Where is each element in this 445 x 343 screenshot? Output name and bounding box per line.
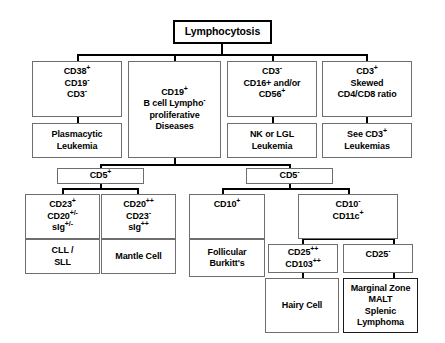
- node-cd10-negative-cd11c[interactable]: CD10- CD11c+: [298, 194, 398, 239]
- node-marginalzone-line3: Splenic: [346, 306, 415, 318]
- node-marginalzone-line4: Lymphoma: [346, 317, 415, 329]
- node-mantle-cell[interactable]: Mantle Cell: [101, 239, 176, 274]
- node-marginal-zone-malt[interactable]: Marginal Zone MALT Splenic Lymphoma: [343, 278, 418, 333]
- node-cd20pp-line1: CD20++: [104, 199, 173, 211]
- node-cd38-line2: CD19-: [35, 78, 119, 90]
- connector-level1-drop-2: [174, 54, 176, 61]
- node-cd3neg-line3: CD56+: [230, 89, 314, 101]
- node-cd3-positive-skewed[interactable]: CD3+ Skewed CD4/CD8 ratio: [322, 61, 412, 117]
- connector-level1-bus: [77, 54, 367, 56]
- node-cd38-positive[interactable]: CD38+ CD19- CD3-: [32, 61, 122, 117]
- node-cd25pp-line1: CD25++: [271, 247, 335, 259]
- node-cd38-line3: CD3-: [35, 89, 119, 101]
- node-cd23-line3: sIg+/-: [28, 222, 97, 234]
- node-cd19-line2: B cell Lympho-: [131, 98, 218, 110]
- connector-cd5pos-child-bus: [62, 188, 139, 190]
- node-cd19-line4: Diseases: [131, 121, 218, 133]
- node-cd38-line1: CD38+: [35, 66, 119, 78]
- node-cd10neg-line1: CD10-: [301, 199, 395, 211]
- node-nk-lgl-leukemia[interactable]: NK or LGL Leukemia: [227, 123, 317, 158]
- node-follicular-line2: Burkitt's: [192, 258, 262, 270]
- node-cd3pos-line2: Skewed: [325, 78, 409, 90]
- node-plasmacytic-leukemia[interactable]: Plasmacytic Leukemia: [32, 123, 122, 158]
- node-plasmacytic-line1: Plasmacytic: [35, 129, 119, 141]
- node-cd23-line2: CD20+/-: [28, 211, 97, 223]
- node-follicular-line1: Follicular: [192, 247, 262, 259]
- node-cd3neg-line1: CD3-: [230, 66, 314, 78]
- node-cllsll-line1: CLL /: [28, 245, 97, 257]
- node-cd3neg-line2: CD16+ and/or: [230, 78, 314, 90]
- node-cllsll-line2: SLL: [28, 257, 97, 269]
- node-mantle-line1: Mantle Cell: [104, 251, 173, 263]
- connector-cd5neg-child-bus: [222, 188, 350, 190]
- node-see-cd3-leukemias[interactable]: See CD3+ Leukemias: [322, 123, 412, 158]
- node-cd20pp-line2: CD23-: [104, 211, 173, 223]
- node-plasmacytic-line2: Leukemia: [35, 141, 119, 153]
- lymphocytosis-flowchart: Lymphocytosis CD38+ CD19- CD3- CD19+ B c…: [0, 0, 445, 343]
- node-marginalzone-line1: Marginal Zone: [346, 283, 415, 295]
- node-cll-sll[interactable]: CLL / SLL: [25, 239, 100, 274]
- node-cd3pos-line1: CD3+: [325, 66, 409, 78]
- node-lymphocytosis-label: Lymphocytosis: [177, 26, 268, 38]
- node-marginalzone-line2: MALT: [346, 294, 415, 306]
- node-nklgl-line1: NK or LGL: [230, 129, 314, 141]
- node-cd10pos-line1: CD10+: [192, 199, 262, 211]
- connector-cd5-bus: [100, 164, 290, 166]
- node-lymphocytosis[interactable]: Lymphocytosis: [173, 20, 272, 44]
- node-cd19-line3: proliferative: [131, 110, 218, 122]
- node-cd20pp-line3: sIg++: [104, 222, 173, 234]
- node-cd10neg-line2: CD11c+: [301, 211, 395, 223]
- node-hairy-cell[interactable]: Hairy Cell: [265, 278, 339, 333]
- node-cd23-line1: CD23+: [28, 199, 97, 211]
- node-cd5pos-label: CD5+: [60, 170, 141, 182]
- node-seecd3-line1: See CD3+: [325, 129, 409, 141]
- node-cd25neg-line1: CD25-: [346, 249, 410, 261]
- node-cd10-positive[interactable]: CD10+: [189, 194, 265, 239]
- connector-level1-drop-3: [272, 54, 274, 61]
- node-cd25-negative[interactable]: CD25-: [343, 244, 413, 273]
- node-follicular-burkitts[interactable]: Follicular Burkitt's: [189, 239, 265, 277]
- connector-level1-drop-4: [366, 54, 368, 61]
- node-cd19-bcell-lpd[interactable]: CD19+ B cell Lympho- proliferative Disea…: [128, 61, 221, 158]
- node-cd25pp-line2: CD103++: [271, 259, 335, 271]
- node-cd5-positive[interactable]: CD5+: [57, 168, 144, 184]
- node-cd20-plusplus[interactable]: CD20++ CD23- sIg++: [101, 194, 176, 239]
- node-cd25-plusplus-cd103[interactable]: CD25++ CD103++: [268, 244, 338, 273]
- node-seecd3-line2: Leukemias: [325, 141, 409, 153]
- node-cd23-positive[interactable]: CD23+ CD20+/- sIg+/-: [25, 194, 100, 239]
- node-cd3pos-line3: CD4/CD8 ratio: [325, 89, 409, 101]
- node-cd3-negative-nk[interactable]: CD3- CD16+ and/or CD56+: [227, 61, 317, 117]
- node-cd5neg-label: CD5-: [249, 170, 330, 182]
- node-nklgl-line2: Leukemia: [230, 141, 314, 153]
- node-hairycell-line1: Hairy Cell: [268, 300, 336, 312]
- connector-level1-drop-1: [77, 54, 79, 61]
- node-cd5-negative[interactable]: CD5-: [246, 168, 333, 184]
